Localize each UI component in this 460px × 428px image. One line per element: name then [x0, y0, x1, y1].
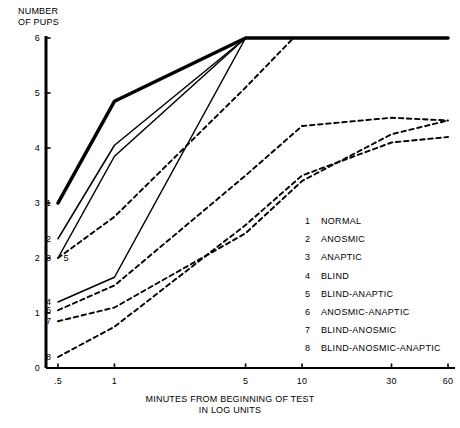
legend-item-key: 1 — [305, 216, 321, 226]
legend-item-key: 7 — [305, 325, 321, 335]
x-tick-label: 5 — [243, 376, 248, 386]
curve-number-label-6: 6 — [46, 305, 51, 315]
y-tick-label: 0 — [24, 363, 40, 373]
x-tick-label: 60 — [443, 376, 453, 386]
legend-item-label: ANOSMIC — [321, 234, 455, 244]
curve-number-label-3: 3 — [46, 253, 51, 263]
legend-item-label: BLIND-ANOSMIC-ANAPTIC — [321, 343, 455, 353]
legend-item-key: 3 — [305, 252, 321, 262]
legend-item-key: 8 — [305, 343, 321, 353]
legend-item-key: 5 — [305, 289, 321, 299]
legend-item-label: NORMAL — [321, 216, 455, 226]
series-line-1 — [58, 38, 448, 203]
legend-item-1: 1NORMAL — [305, 216, 455, 234]
y-tick-label: 2 — [24, 253, 40, 263]
legend-item-label: ANOSMIC-ANAPTIC — [321, 307, 455, 317]
curve-number-label-5: 5 — [64, 253, 69, 263]
curve-number-label-1: 1 — [46, 198, 51, 208]
legend-item-8: 8BLIND-ANOSMIC-ANAPTIC — [305, 343, 455, 361]
legend-item-2: 2ANOSMIC — [305, 234, 455, 252]
curve-number-label-8: 8 — [46, 352, 51, 362]
x-tick-label: .5 — [54, 376, 62, 386]
y-tick-label: 5 — [24, 88, 40, 98]
x-axis-title: MINUTES FROM BEGINNING OF TEST IN LOG UN… — [0, 394, 460, 415]
y-tick-label: 6 — [24, 33, 40, 43]
series-line-3 — [58, 38, 246, 258]
legend: 1NORMAL2ANOSMIC3ANAPTIC4BLIND5BLIND-ANAP… — [305, 216, 455, 362]
curve-number-label-7: 7 — [46, 316, 51, 326]
pup-retrieval-line-chart: NUMBER OF PUPS 0123456 .515103060 123546… — [0, 0, 460, 428]
x-tick-label: 10 — [297, 376, 307, 386]
legend-item-7: 7BLIND-ANOSMIC — [305, 325, 455, 343]
plot-canvas — [0, 0, 460, 428]
legend-item-label: BLIND-ANOSMIC — [321, 325, 455, 335]
legend-item-4: 4BLIND — [305, 271, 455, 289]
legend-item-key: 6 — [305, 307, 321, 317]
legend-item-label: BLIND-ANAPTIC — [321, 289, 455, 299]
x-tick-label: 30 — [386, 376, 396, 386]
legend-item-key: 4 — [305, 271, 321, 281]
legend-item-5: 5BLIND-ANAPTIC — [305, 289, 455, 307]
y-tick-label: 3 — [24, 198, 40, 208]
legend-item-label: BLIND — [321, 271, 455, 281]
legend-item-label: ANAPTIC — [321, 252, 455, 262]
legend-item-3: 3ANAPTIC — [305, 252, 455, 270]
legend-item-key: 2 — [305, 234, 321, 244]
curve-number-label-2: 2 — [46, 234, 51, 244]
y-tick-label: 4 — [24, 143, 40, 153]
series-line-4 — [58, 38, 246, 302]
x-tick-label: 1 — [112, 376, 117, 386]
y-tick-label: 1 — [24, 308, 40, 318]
legend-item-6: 6ANOSMIC-ANAPTIC — [305, 307, 455, 325]
